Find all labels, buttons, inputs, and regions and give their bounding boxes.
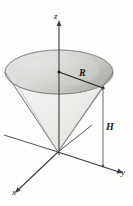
x-axis-label: x bbox=[12, 188, 16, 197]
x-axis-line bbox=[18, 152, 58, 190]
height-foot-dot bbox=[102, 165, 105, 168]
cap-center-dot bbox=[57, 70, 60, 73]
radius-label: R bbox=[79, 68, 86, 78]
cone-diagram-canvas bbox=[0, 0, 133, 206]
y-axis-label: y bbox=[121, 168, 125, 177]
height-label: H bbox=[106, 122, 114, 132]
z-axis-label: z bbox=[54, 12, 58, 21]
cone-diagram-figure: z y x R H bbox=[0, 0, 133, 206]
y-axis-line bbox=[58, 152, 119, 172]
